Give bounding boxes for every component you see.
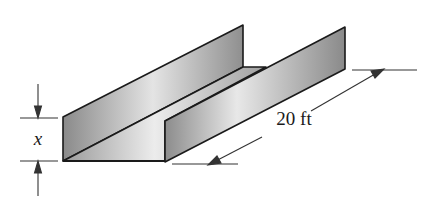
channel-diagram: x 20 ft — [0, 0, 424, 207]
arrow-upright-icon — [371, 69, 384, 78]
height-label: x — [33, 128, 43, 149]
arrow-up-icon — [35, 161, 42, 173]
length-label: 20 ft — [276, 108, 312, 129]
arrow-downleft-icon — [208, 156, 221, 165]
arrow-down-icon — [35, 106, 42, 118]
